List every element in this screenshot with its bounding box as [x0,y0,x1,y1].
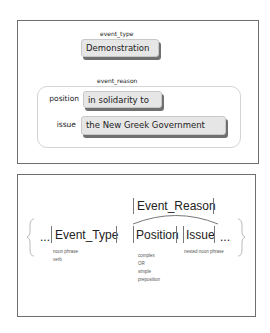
issue-slot: Issue [186,228,215,242]
trailing-ellipsis: ... [220,230,230,244]
event-reason-bar-right [213,198,214,214]
position-slot: Position [136,228,179,242]
position-annotations: complex OR simple preposition [138,252,160,284]
leading-ellipsis: ... [40,230,50,244]
annotation-verb: verb [53,256,78,264]
event-type-bar-left [51,226,52,243]
annotation-nested-noun-phrase: nested noun phrase [184,248,224,256]
event-reason-slot: Event_Reason [137,199,216,213]
left-brace-icon [27,219,34,256]
annotation-simple: simple [138,268,160,276]
event-reason-bar-left [133,198,134,214]
issue-annotations: nested noun phrase [184,248,224,256]
annotation-complex: complex [138,252,160,260]
event-reason-arc [133,216,218,225]
position-bar-right [176,226,177,243]
annotation-preposition: preposition [138,276,160,284]
issue-bar-left [183,226,184,243]
annotation-or: OR [138,260,160,268]
event-type-slot: Event_Type [55,228,118,242]
issue-bar-right [214,226,215,243]
right-brace-icon [238,219,245,256]
position-bar-left [133,226,134,243]
braces-and-arc [0,0,270,333]
event-type-bar-right [116,226,117,243]
event-type-annotations: noun phrase verb [53,248,78,264]
annotation-noun-phrase: noun phrase [53,248,78,256]
